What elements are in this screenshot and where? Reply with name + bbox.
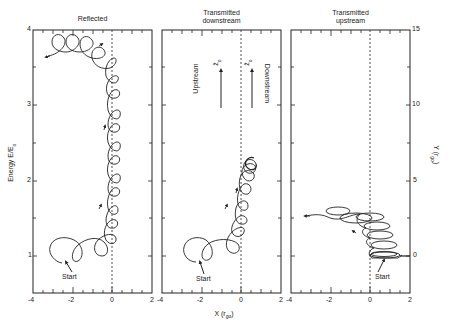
y-right-tick-label: 5 [413,176,417,183]
y-tick-label: 1 [28,251,32,258]
x-tick-label: -2 [68,296,74,303]
panel-title-transmitted-upstream: Transmitted upstream [291,9,410,25]
x-tick-label: -2 [326,296,332,303]
upstream-annotation: Upstream [192,59,199,99]
y-tick-label: 3 [27,100,31,107]
x-tick-label: 0 [110,296,114,303]
x-axis-label: X (rgo) [196,310,252,319]
x-tick-label: 2 [408,296,412,303]
trajectory-arrow-icon [46,56,50,57]
x-tick-marks [172,30,271,293]
y-tick-marks [291,67,410,256]
z-hat-label: ẑo [212,60,221,66]
trajectory-curve [184,160,256,263]
y-right-tick-label: 15 [412,25,420,32]
x-tick-label: -4 [157,296,163,303]
panel-reflected [33,30,152,293]
y-tick-label: 4 [27,25,31,32]
x-tick-marks [301,30,400,293]
figure [0,0,449,330]
trajectory-arrow-icon [104,126,105,130]
panel-title-reflected: Reflected [33,15,152,22]
x-tick-label: 2 [279,296,283,303]
trajectory-arrow-icon [99,44,102,46]
z-hat-label: ẑo [243,60,252,66]
x-tick-label: 0 [368,296,372,303]
panel-transmitted-upstream [291,30,410,293]
trajectory-arrow-icon [225,205,227,209]
start-pointer-arrow [378,260,384,272]
start-label: Start [196,275,211,282]
y-axis-label-y: Y (rgo) [430,135,439,175]
x-tick-label: -4 [28,296,34,303]
x-tick-label: -2 [197,296,203,303]
trajectory-arrow-icon [353,231,356,233]
trajectory-arrow-icon [99,205,101,209]
x-tick-label: 0 [239,296,243,303]
x-tick-marks [43,30,142,293]
downstream-annotation: Downstream [264,60,271,108]
x-tick-label: 2 [150,296,154,303]
y-tick-label: 2 [27,176,31,183]
start-pointer-arrow [200,262,204,274]
trajectory-arrow-icon [236,189,237,193]
start-label: Start [62,273,77,280]
y-right-tick-label: 0 [413,251,417,258]
start-pointer-arrow [66,262,72,272]
start-label: Start [375,273,390,280]
x-tick-label: -4 [286,296,292,303]
y-axis-label-energy: Energy E/Eo [7,133,16,193]
plot-frame [291,30,410,293]
panel-title-transmitted-downstream: Transmitted downstream [162,9,281,25]
y-tick-marks [33,67,152,256]
trajectory-curve [48,35,120,263]
trajectory-curve [306,207,402,258]
y-right-tick-label: 10 [412,100,420,107]
